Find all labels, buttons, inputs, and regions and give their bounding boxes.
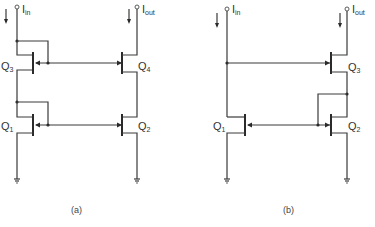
- input-terminal-b: [225, 7, 229, 11]
- input-current-label-a: Iin: [22, 4, 31, 16]
- output-current-label-a: Iout: [142, 4, 155, 16]
- input-terminal-a: [15, 5, 19, 9]
- circuit-diagram: [0, 0, 375, 227]
- output-terminal-b: [345, 7, 349, 11]
- caption-a: (a): [71, 205, 82, 215]
- panel-b-circuit: [215, 7, 350, 183]
- transistor-label-q3-a: Q3: [1, 61, 13, 73]
- caption-b: (b): [283, 205, 294, 215]
- transistor-label-q3-b: Q3: [348, 62, 360, 74]
- transistor-label-q4-a: Q4: [138, 61, 150, 73]
- output-terminal-a: [135, 5, 139, 9]
- panel-a-circuit: [4, 5, 140, 183]
- ground-icon: [14, 179, 20, 183]
- ground-icon: [344, 179, 350, 183]
- input-current-label-b: Iin: [232, 4, 241, 16]
- output-current-label-b: Iout: [352, 4, 365, 16]
- transistor-label-q2-b: Q2: [348, 121, 360, 133]
- transistor-label-q2-a: Q2: [138, 121, 150, 133]
- transistor-label-q1-b: Q1: [213, 121, 225, 133]
- ground-icon: [224, 179, 230, 183]
- ground-icon: [134, 179, 140, 183]
- transistor-label-q1-a: Q1: [1, 121, 13, 133]
